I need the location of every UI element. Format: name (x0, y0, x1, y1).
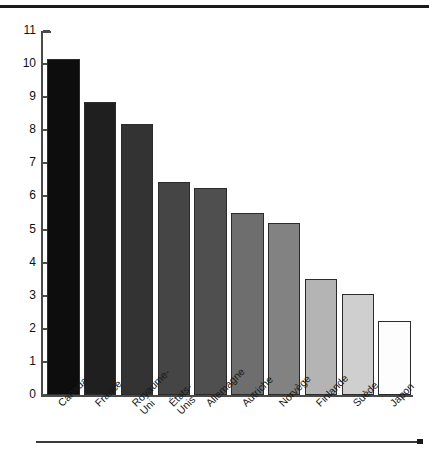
y-tick-label-5: 5 (10, 223, 36, 235)
bar-chart: 01234567891011 CanadaFranceRoyaume- UniÉ… (0, 0, 429, 449)
y-tick-label-8: 8 (10, 123, 36, 135)
y-tick-label-11: 11 (10, 24, 36, 36)
bar-1 (84, 102, 116, 395)
y-tick-label-10: 10 (10, 57, 36, 69)
y-axis-line (41, 31, 43, 397)
bottom-rule (36, 441, 422, 443)
y-tick-label-6: 6 (10, 189, 36, 201)
y-tick-11 (43, 30, 50, 32)
bar-6 (268, 223, 300, 395)
y-tick-label-0: 0 (10, 388, 36, 400)
bottom-rule-cap (417, 439, 423, 444)
y-tick-label-2: 2 (10, 322, 36, 334)
bar-4 (194, 188, 226, 395)
bar-0 (47, 59, 79, 395)
y-tick-label-7: 7 (10, 156, 36, 168)
bar-2 (121, 124, 153, 395)
bar-3 (158, 182, 190, 395)
y-tick-label-4: 4 (10, 256, 36, 268)
y-tick-label-1: 1 (10, 355, 36, 367)
y-tick-label-9: 9 (10, 90, 36, 102)
y-tick-label-3: 3 (10, 289, 36, 301)
